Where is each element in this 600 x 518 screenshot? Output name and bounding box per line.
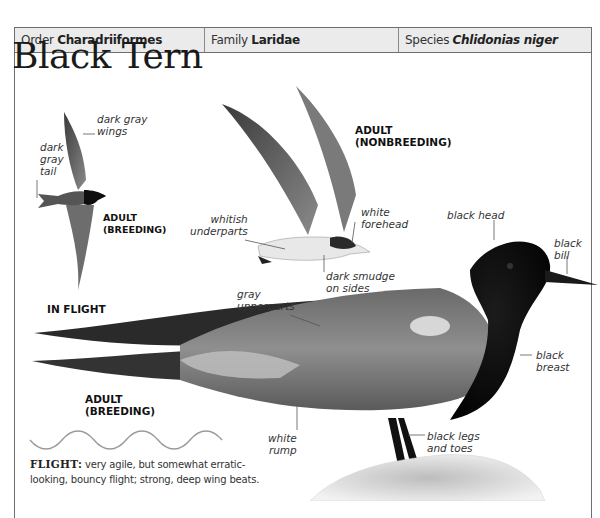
- label-black-breast: black breast: [536, 349, 569, 373]
- label-white-rump: white rump: [268, 432, 297, 456]
- perched-bird-breeding: [32, 241, 598, 465]
- caption-adult-breeding-perched: ADULT (BREEDING): [85, 393, 155, 417]
- page-title: Black Tern: [12, 35, 203, 76]
- label-gray-upperparts: gray upperparts: [237, 288, 295, 312]
- caption-in-flight: IN FLIGHT: [47, 303, 106, 315]
- flying-bird-breeding: [38, 112, 106, 290]
- label-whitish-underparts: whitish underparts: [190, 213, 248, 237]
- label-black-head: black head: [447, 209, 504, 221]
- flying-bird-nonbreeding: [222, 86, 370, 264]
- label-dark-gray-tail: dark gray tail: [40, 141, 64, 177]
- caption-adult-breeding-flight: ADULT (BREEDING): [103, 212, 166, 236]
- caption-adult-nonbreeding: ADULT (NONBREEDING): [355, 124, 452, 148]
- label-dark-smudge-sides: dark smudge on sides: [326, 270, 395, 294]
- flight-pattern-wave: [30, 431, 222, 449]
- rock: [310, 455, 545, 501]
- label-white-forehead: white forehead: [361, 206, 408, 230]
- flight-description: FLIGHT: very agile, but somewhat erratic…: [30, 457, 270, 487]
- label-black-bill: black bill: [554, 237, 582, 261]
- label-black-legs-toes: black legs and toes: [427, 430, 480, 454]
- label-dark-gray-wings: dark gray wings: [97, 113, 147, 137]
- flight-heading: FLIGHT:: [30, 458, 82, 470]
